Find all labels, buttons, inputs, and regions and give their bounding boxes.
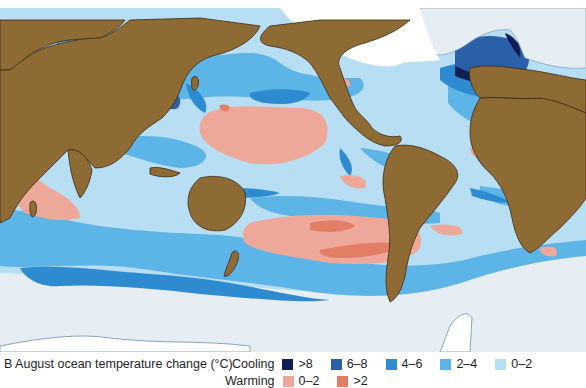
legend-item-warming-gt2: >2 [337,374,367,388]
legend-warming-row: Warming 0–2 >2 [225,374,386,388]
legend-item-cooling-2-4: 2–4 [440,357,477,371]
legend-label: 4–6 [402,357,423,371]
warming-label: Warming [225,374,275,388]
legend-label: 0–2 [511,357,532,371]
ocean-temperature-map [0,8,586,352]
legend-label: 6–8 [347,357,368,371]
madagascar [30,201,37,217]
legend-label: 2–4 [456,357,477,371]
swatch-cooling-0-2 [495,359,506,370]
legend-item-cooling-4-6: 4–6 [386,357,423,371]
legend-item-cooling-gt8: >8 [282,357,312,371]
legend-item-cooling-6-8: 6–8 [331,357,368,371]
legend-label: >2 [353,374,367,388]
cooling-label: Cooling [232,357,274,371]
swatch-warming-0-2 [283,376,294,387]
legend-cooling-row: Cooling >8 6–8 4–6 2–4 0–2 [232,357,550,371]
swatch-cooling-4-6 [386,359,397,370]
swatch-cooling-6-8 [331,359,342,370]
swatch-cooling-2-4 [440,359,451,370]
legend-label: >8 [298,357,312,371]
legend-item-cooling-0-2: 0–2 [495,357,532,371]
legend: B August ocean temperature change (°C) C… [0,352,586,388]
swatch-cooling-gt8 [282,359,293,370]
figure-caption: B August ocean temperature change (°C) [4,357,233,371]
legend-item-warming-0-2: 0–2 [283,374,320,388]
swatch-warming-gt2 [337,376,348,387]
legend-label: 0–2 [299,374,320,388]
